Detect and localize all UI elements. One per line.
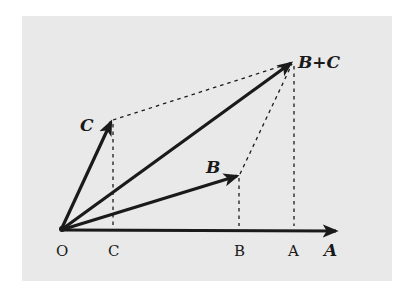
- vector-diagram: C B B+C A O C B A: [0, 0, 416, 298]
- origin-dot: [59, 226, 65, 232]
- label-axis-a: A: [287, 242, 299, 260]
- label-vector-c: C: [80, 115, 94, 135]
- label-origin: O: [56, 242, 68, 260]
- label-axis-c: C: [108, 242, 119, 260]
- vector-b-arrow: [61, 176, 237, 230]
- label-vector-bc: B+C: [297, 52, 341, 72]
- label-vector-a: A: [322, 240, 337, 260]
- vector-bc-arrow: [61, 63, 291, 230]
- label-axis-b: B: [234, 242, 245, 260]
- vector-a-arrow: [61, 230, 336, 231]
- dashed-c-to-bc: [113, 63, 291, 120]
- label-vector-b: B: [205, 157, 220, 177]
